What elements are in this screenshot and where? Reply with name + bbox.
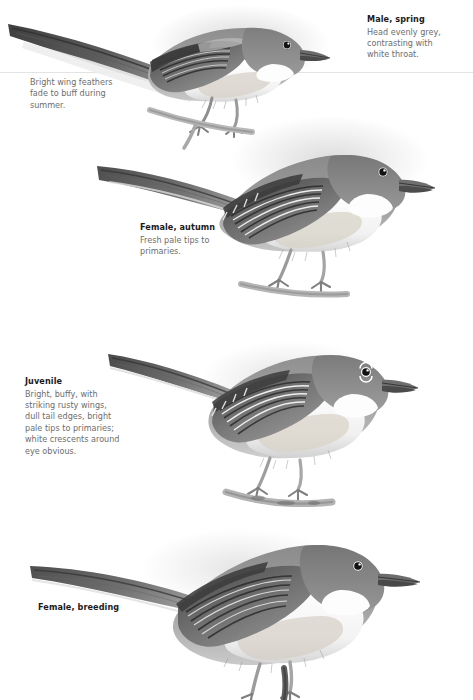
caption-juvenile-line-1: striking rusty wings, [25,400,143,411]
caption-juvenile-line-3: pale tips to primaries; [25,423,143,434]
caption-wing-fade-note: Bright wing feathers fade to buff during… [30,77,150,111]
bird-female-autumn-figure [95,108,455,303]
caption-male-spring-line-2: white throat. [367,49,467,60]
caption-female-autumn-line-0: Fresh pale tips to [140,235,250,246]
caption-female-autumn-title: Female, autumn [140,222,250,234]
caption-juvenile-title: Juvenile [25,376,143,388]
caption-juvenile-line-2: dull tail edges, bright [25,411,143,422]
caption-female-autumn-line-1: primaries. [140,246,250,257]
bird-juvenile-figure [108,332,428,507]
caption-juvenile-line-0: Bright, buffy, with [25,389,143,400]
caption-wing-fade-line-2: summer. [30,100,150,111]
caption-juvenile-line-4: white crescents around [25,434,143,445]
caption-male-spring-title: Male, spring [367,14,467,26]
caption-female-autumn: Female, autumn Fresh pale tips to primar… [140,222,250,257]
caption-male-spring-line-0: Head evenly grey, [367,27,467,38]
caption-wing-fade-line-0: Bright wing feathers [30,77,150,88]
caption-female-breeding-title: Female, breeding [38,602,158,614]
caption-juvenile-line-5: eye obvious. [25,446,143,457]
caption-wing-fade-line-1: fade to buff during [30,88,150,99]
caption-female-breeding: Female, breeding [38,602,158,615]
caption-juvenile: Juvenile Bright, buffy, with striking ru… [25,376,143,457]
caption-male-spring: Male, spring Head evenly grey, contrasti… [367,14,467,61]
caption-male-spring-line-1: contrasting with [367,38,467,49]
field-guide-plate: Male, spring Head evenly grey, contrasti… [0,0,473,700]
